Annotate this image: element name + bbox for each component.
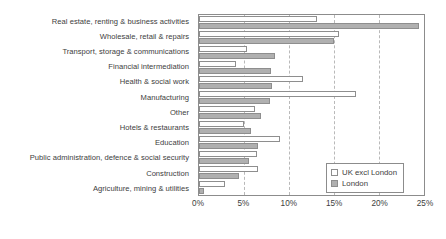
bar xyxy=(199,151,257,157)
bar xyxy=(199,158,249,164)
x-axis: 0%5%10%15%20%25% xyxy=(198,197,425,215)
bar-group xyxy=(199,45,424,60)
bar xyxy=(199,83,272,89)
legend-item[interactable]: UK excl London xyxy=(331,167,397,178)
legend-item[interactable]: London xyxy=(331,178,397,189)
bar xyxy=(199,23,419,29)
legend-label: UK excl London xyxy=(342,169,397,177)
bar xyxy=(199,166,258,172)
bar-group xyxy=(199,135,424,150)
bar-group xyxy=(199,105,424,120)
bar-group xyxy=(199,15,424,30)
bar xyxy=(199,98,270,104)
category-label: Construction xyxy=(0,166,194,181)
category-label: Manufacturing xyxy=(0,90,194,105)
bar-group xyxy=(199,60,424,75)
x-tick-label: 5% xyxy=(237,199,249,208)
category-label: Public administration, defence & social … xyxy=(0,151,194,166)
bar xyxy=(199,46,247,52)
category-label: Other xyxy=(0,105,194,120)
bar xyxy=(199,143,258,149)
bar xyxy=(199,31,339,37)
x-tick-label: 20% xyxy=(371,199,387,208)
bar xyxy=(199,68,271,74)
bar xyxy=(199,188,204,194)
category-label: Wholesale, retail & repairs xyxy=(0,29,194,44)
legend-swatch-icon xyxy=(331,169,338,176)
bar-chart: Real estate, renting & business activiti… xyxy=(0,0,446,239)
chart-legend: UK excl LondonLondon xyxy=(326,163,404,193)
bar-group xyxy=(199,120,424,135)
x-tick-label: 0% xyxy=(192,199,204,208)
bar-group xyxy=(199,30,424,45)
x-tick-label: 15% xyxy=(326,199,342,208)
bar xyxy=(199,91,356,97)
category-label: Real estate, renting & business activiti… xyxy=(0,14,194,29)
bar xyxy=(199,106,255,112)
bar xyxy=(199,61,236,67)
category-label: Transport, storage & communications xyxy=(0,44,194,59)
bar xyxy=(199,76,303,82)
bar-group xyxy=(199,75,424,90)
bar xyxy=(199,38,334,44)
bar xyxy=(199,53,275,59)
bar xyxy=(199,136,280,142)
bar xyxy=(199,113,261,119)
legend-label: London xyxy=(342,180,368,188)
category-label: Education xyxy=(0,135,194,150)
bar xyxy=(199,181,225,187)
category-label: Financial intermediation xyxy=(0,60,194,75)
category-axis-labels: Real estate, renting & business activiti… xyxy=(0,14,194,196)
bar xyxy=(199,16,317,22)
x-tick-label: 25% xyxy=(417,199,433,208)
x-tick-label: 10% xyxy=(281,199,297,208)
category-label: Agriculture, mining & utilities xyxy=(0,181,194,196)
bar xyxy=(199,173,239,179)
bar xyxy=(199,128,251,134)
category-label: Hotels & restaurants xyxy=(0,120,194,135)
bar xyxy=(199,121,244,127)
legend-swatch-icon xyxy=(331,180,338,187)
category-label: Health & social work xyxy=(0,75,194,90)
bar-group xyxy=(199,90,424,105)
